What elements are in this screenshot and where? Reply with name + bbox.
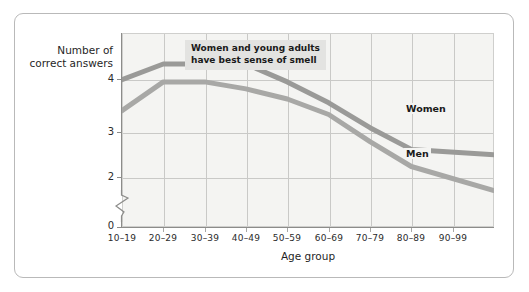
y-axis-line bbox=[121, 33, 122, 193]
y-axis-title-line-2: correct answers bbox=[18, 57, 113, 70]
ytick-label-2: 2 bbox=[92, 172, 114, 182]
xtick-label-20-29: 20–29 bbox=[142, 233, 184, 243]
x-axis-line bbox=[121, 227, 494, 228]
ytick-label-0: 0 bbox=[92, 221, 114, 231]
xtick-mark-5 bbox=[329, 228, 330, 232]
smell-test-line-chart: Women Men Women and young adults have be… bbox=[0, 0, 529, 292]
xtick-label-80-89: 80–89 bbox=[390, 233, 432, 243]
series-label-men: Men bbox=[404, 148, 431, 159]
ytick-mark-3 bbox=[117, 132, 121, 133]
annotation-line-2: have best sense of smell bbox=[191, 55, 320, 67]
xtick-label-90-99: 90–99 bbox=[432, 233, 474, 243]
y-axis-title: Number of correct answers bbox=[18, 44, 113, 70]
xtick-label-40-49: 40–49 bbox=[225, 233, 267, 243]
ytick-mark-0 bbox=[117, 227, 121, 228]
xtick-mark-3 bbox=[246, 228, 247, 232]
xtick-mark-2 bbox=[205, 228, 206, 232]
y-axis-break-icon bbox=[112, 190, 132, 222]
xtick-label-30-39: 30–39 bbox=[184, 233, 226, 243]
ytick-mark-4 bbox=[117, 79, 121, 80]
xtick-mark-4 bbox=[287, 228, 288, 232]
series-line-men bbox=[122, 82, 494, 191]
ytick-label-4: 4 bbox=[92, 74, 114, 84]
xtick-label-70-79: 70–79 bbox=[349, 233, 391, 243]
xtick-mark-7 bbox=[411, 228, 412, 232]
series-label-women: Women bbox=[404, 103, 448, 114]
xtick-mark-1 bbox=[163, 228, 164, 232]
x-axis-title: Age group bbox=[122, 250, 494, 262]
xtick-mark-6 bbox=[370, 228, 371, 232]
xtick-mark-8 bbox=[453, 228, 454, 232]
xtick-label-60-69: 60–69 bbox=[308, 233, 350, 243]
ytick-mark-2 bbox=[117, 177, 121, 178]
ytick-label-3: 3 bbox=[92, 127, 114, 137]
annotation-line-1: Women and young adults bbox=[191, 43, 320, 55]
xtick-label-50-59: 50–59 bbox=[266, 233, 308, 243]
xtick-label-10-19: 10–19 bbox=[101, 233, 143, 243]
y-axis-title-line-1: Number of bbox=[18, 44, 113, 57]
annotation-callout: Women and young adults have best sense o… bbox=[185, 40, 326, 70]
